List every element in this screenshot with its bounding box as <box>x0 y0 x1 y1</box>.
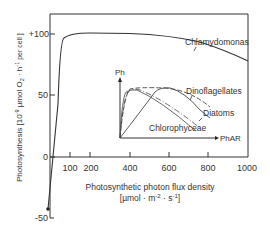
y-tick-m50: -50 <box>35 213 48 223</box>
x-tick-1000: 1000 <box>237 163 257 173</box>
inset-label-diatoms: Diatoms <box>203 108 234 118</box>
inset-label-chlorophyceae: Chlorophyceae <box>149 123 206 133</box>
x-axis-title: Photosynthetic photon flux density <box>86 182 216 192</box>
chart: +100 50 0 -50 100 200 400 600 800 1000 P… <box>0 0 270 229</box>
x-tick-800: 800 <box>200 163 215 173</box>
x-axis-units: [µmol · m-2 · s-1] <box>120 193 180 203</box>
y-axis-title: Photosynthesis [10-9 µmol O2 · h-1 per c… <box>14 33 25 182</box>
leader-chlamydomonas <box>194 47 196 51</box>
x-ticks <box>70 152 208 157</box>
inset-x-label: PhAR <box>220 134 241 143</box>
label-chlamydomonas: Chlamydomonas <box>185 37 249 47</box>
start-point-marker <box>46 207 50 211</box>
inset-y-label: Ph <box>115 68 125 77</box>
x-tick-200: 200 <box>83 163 98 173</box>
leader-diatoms <box>199 118 202 121</box>
y-tick-100: +100 <box>29 29 49 39</box>
y-tick-0: 0 <box>43 152 48 162</box>
inset-chart: Ph PhAR Dinoflagellates Diatoms Chloroph… <box>115 68 242 143</box>
x-tick-400: 400 <box>122 163 137 173</box>
x-tick-600: 600 <box>161 163 176 173</box>
y-tick-labels: +100 50 0 -50 <box>29 29 49 223</box>
x-tick-100: 100 <box>62 163 77 173</box>
x-tick-labels: 100 200 400 600 800 1000 <box>62 163 257 173</box>
y-tick-50: 50 <box>38 90 48 100</box>
inset-label-dinoflagellates: Dinoflagellates <box>186 86 242 96</box>
leader-dinoflagellates <box>190 96 192 100</box>
